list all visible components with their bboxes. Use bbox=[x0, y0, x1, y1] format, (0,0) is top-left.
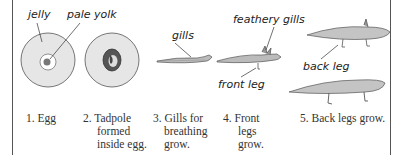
caption-stage-3: 3. Gills for breathing grow. bbox=[153, 112, 207, 151]
label-pale-yolk: pale yolk bbox=[67, 8, 117, 21]
tadpole-front-legs-illustration bbox=[217, 27, 281, 77]
caption-line: 1. Egg bbox=[26, 112, 56, 125]
label-back-leg: back leg bbox=[303, 60, 349, 73]
caption-line: grow. bbox=[153, 138, 207, 151]
label-gills: gills bbox=[172, 29, 194, 42]
label-feathery-gills: feathery gills bbox=[233, 13, 305, 26]
caption-line: legs bbox=[223, 125, 264, 138]
caption-stage-1: 1. Egg bbox=[26, 112, 56, 125]
caption-line: 3. Gills for bbox=[153, 112, 207, 125]
axolotl-lower-illustration bbox=[289, 80, 385, 104]
caption-line: 5. Back legs grow. bbox=[300, 112, 385, 125]
caption-stage-5: 5. Back legs grow. bbox=[300, 112, 385, 125]
caption-line: grow. bbox=[223, 138, 264, 151]
label-front-leg: front leg bbox=[218, 78, 265, 91]
label-jelly: jelly bbox=[28, 8, 50, 21]
tadpole-gills-illustration bbox=[157, 43, 212, 63]
caption-line: 2. Tadpole bbox=[83, 112, 147, 125]
caption-stage-4: 4. Front legs grow. bbox=[223, 112, 264, 151]
axolotl-back-leg-illustration bbox=[307, 19, 390, 59]
caption-stage-2: 2. Tadpole formed inside egg. bbox=[83, 112, 147, 151]
egg-illustration bbox=[21, 23, 80, 87]
caption-line: 4. Front bbox=[223, 112, 264, 125]
caption-line: formed bbox=[83, 125, 147, 138]
egg-with-tadpole-illustration bbox=[85, 33, 139, 87]
caption-line: inside egg. bbox=[83, 138, 147, 151]
caption-line: breathing bbox=[153, 125, 207, 138]
